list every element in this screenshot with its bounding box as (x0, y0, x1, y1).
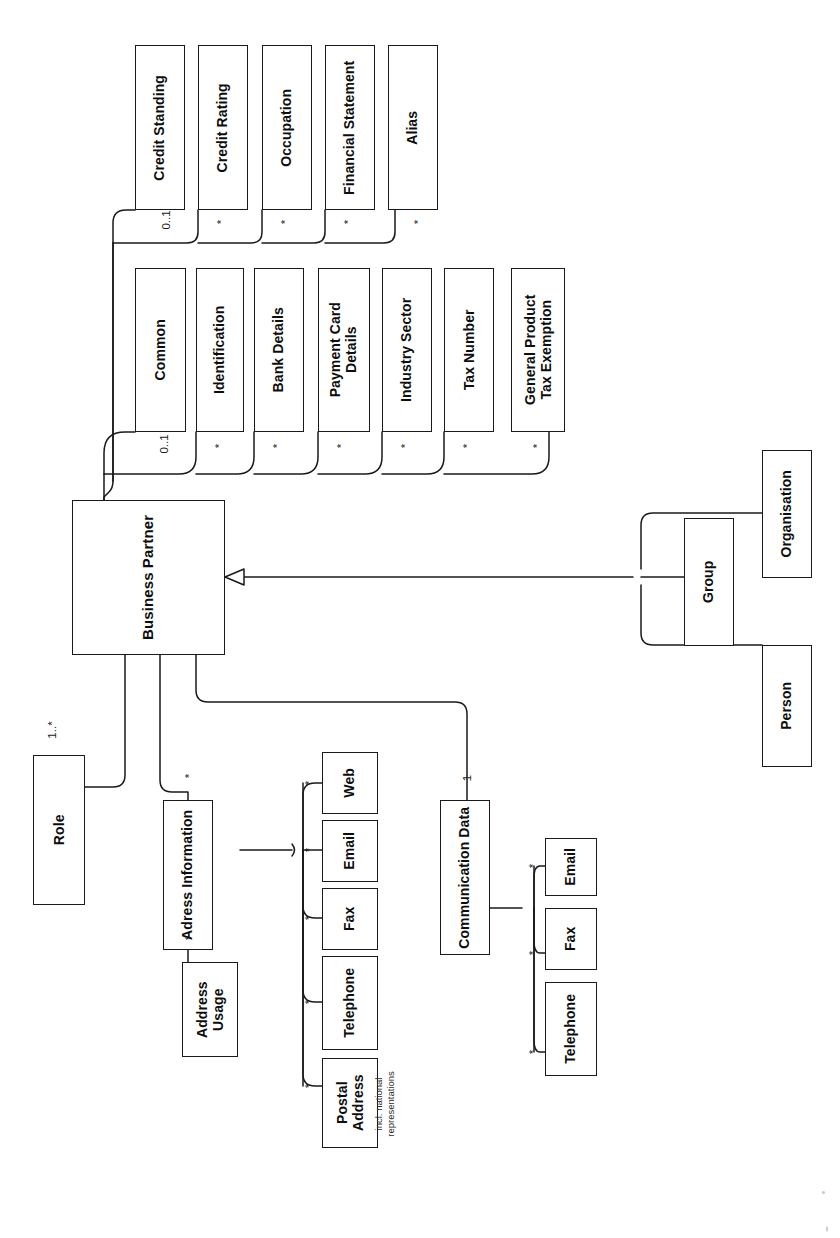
node-label: Fax (342, 907, 358, 931)
multiplicity-telephone-communication: * (527, 1037, 543, 1067)
multiplicity-bank-details: * (271, 431, 287, 461)
node-role[interactable]: Role (33, 755, 85, 905)
multiplicity-address-usage: * (183, 923, 199, 953)
multiplicity-occupation: * (279, 207, 295, 237)
node-tax-number[interactable]: Tax Number (444, 268, 494, 432)
node-label: Identification (212, 306, 228, 395)
uml-class-diagram: Credit Standing 0..1 Credit Rating * Occ… (0, 0, 840, 1238)
multiplicity-general-product-tax-exemption: * (531, 431, 547, 461)
node-label: Bank Details (271, 307, 287, 392)
multiplicity-common: 0..1 (158, 426, 174, 462)
node-label: Web (342, 768, 358, 798)
node-postal-address[interactable]: Postal Address (322, 1058, 378, 1148)
node-organisation[interactable]: Organisation (762, 450, 812, 578)
node-label: General Product Tax Exemption (522, 295, 553, 405)
node-label: Adress Information (180, 810, 196, 940)
multiplicity-fax-communication: * (527, 938, 543, 968)
multiplicity-financial-statement: * (342, 207, 358, 237)
node-label: Credit Standing (152, 75, 168, 181)
node-label: Address Usage (194, 981, 225, 1038)
node-financial-statement[interactable]: Financial Statement (325, 45, 375, 210)
multiplicity-credit-rating: * (215, 207, 231, 237)
multiplicity-fax-address: * (303, 903, 319, 933)
node-business-partner[interactable]: Business Partner (72, 500, 225, 655)
node-label: Role (51, 815, 67, 846)
multiplicity-alias: * (412, 207, 428, 237)
node-email-address[interactable]: Email (322, 820, 378, 882)
node-general-product-tax-exemption[interactable]: General Product Tax Exemption (511, 268, 565, 432)
node-web-address[interactable]: Web (322, 752, 378, 814)
multiplicity-email-communication: * (527, 851, 543, 881)
node-label: Person (779, 682, 795, 730)
bp-bottom-edges (85, 655, 467, 800)
node-telephone-communication[interactable]: Telephone (545, 982, 597, 1076)
node-label: Credit Rating (215, 83, 231, 172)
node-label: Communication Data (457, 807, 473, 949)
node-label: Alias (405, 111, 421, 145)
multiplicity-identification: * (213, 431, 229, 461)
node-address-usage[interactable]: Address Usage (182, 962, 238, 1057)
node-credit-rating[interactable]: Credit Rating (198, 45, 248, 210)
multiplicity-credit-standing: 0..1 (160, 202, 176, 238)
node-communication-data[interactable]: Communication Data (440, 800, 490, 955)
multiplicity-payment-card-details: * (335, 431, 351, 461)
postal-address-note: incl. national representations (373, 1061, 401, 1147)
node-industry-sector[interactable]: Industry Sector (382, 268, 432, 432)
multiplicity-industry-sector: * (399, 431, 415, 461)
node-label: Common (153, 319, 169, 380)
multiplicity-email-address: * (303, 835, 319, 865)
multiplicity-postal-address: * (303, 1071, 319, 1101)
multiplicity-adress-information: * (183, 761, 199, 791)
generalization-edges (225, 513, 762, 645)
node-label: Tax Number (461, 310, 477, 391)
multiplicity-role: 1..* (46, 712, 62, 748)
node-label: Telephone (563, 994, 579, 1064)
node-common[interactable]: Common (135, 268, 186, 432)
scan-artifact (822, 1191, 825, 1194)
multiplicity-tax-number: * (461, 431, 477, 461)
address-children-edges (240, 783, 322, 1086)
node-bank-details[interactable]: Bank Details (254, 268, 304, 432)
node-label: Organisation (779, 470, 795, 558)
node-label: Industry Sector (399, 298, 415, 402)
node-label: Occupation (279, 88, 295, 166)
node-label: Business Partner (140, 515, 157, 640)
node-identification[interactable]: Identification (196, 268, 244, 432)
node-person[interactable]: Person (762, 645, 812, 767)
scan-artifact (826, 1226, 828, 1232)
node-payment-card-details[interactable]: Payment Card Details (318, 268, 370, 432)
multiplicity-web-address: * (303, 768, 319, 798)
node-fax-communication[interactable]: Fax (545, 908, 597, 970)
node-group[interactable]: Group (684, 518, 734, 646)
node-fax-address[interactable]: Fax (322, 888, 378, 950)
node-label: Email (342, 832, 358, 870)
node-email-communication[interactable]: Email (545, 838, 597, 896)
node-label: Financial Statement (342, 60, 358, 194)
node-label: Email (563, 848, 579, 886)
multiplicity-communication-data: 1 (461, 763, 477, 793)
bp-top-stem (104, 243, 113, 500)
multiplicity-telephone-address: * (303, 987, 319, 1017)
node-label: Payment Card Details (328, 302, 359, 397)
node-telephone-address[interactable]: Telephone (322, 956, 378, 1050)
node-occupation[interactable]: Occupation (262, 45, 312, 210)
node-label: Telephone (342, 968, 358, 1038)
node-credit-standing[interactable]: Credit Standing (135, 45, 185, 210)
node-label: Fax (563, 927, 579, 951)
node-alias[interactable]: Alias (388, 45, 438, 210)
node-label: Group (701, 561, 717, 604)
node-label: Postal Address (334, 1075, 365, 1132)
